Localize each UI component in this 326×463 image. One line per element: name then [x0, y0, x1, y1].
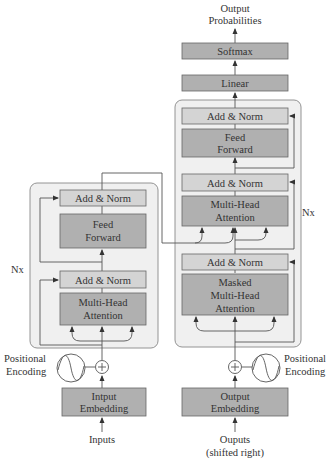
encoder-ff-label-2: Forward [85, 232, 121, 243]
encoder-add-norm-bottom-label: Add & Norm [75, 275, 131, 286]
decoder-ff-label-2: Forward [217, 144, 253, 155]
decoder-pos-label-1: Positional [284, 353, 326, 364]
output-probabilities-label-1: Output [220, 3, 249, 14]
encoder-pos-label-2: Encoding [6, 366, 47, 377]
decoder-add-norm-top-label: Add & Norm [207, 111, 263, 122]
transformer-diagram: Output Probabilities Add & [0, 0, 326, 463]
input-embedding-label-2: Embedding [80, 403, 129, 414]
decoder-ff-label-1: Feed [225, 132, 246, 143]
output-probabilities-label-2: Probabilities [208, 15, 261, 26]
decoder-pos-label-2: Encoding [285, 366, 326, 377]
decoder-masked-label-3: Attention [215, 303, 255, 314]
outputs-label-2: (shifted right) [206, 447, 265, 459]
encoder-add-norm-top-label: Add & Norm [75, 193, 131, 204]
encoder-nx-label: Nx [11, 264, 25, 275]
encoder-ff-label-1: Feed [93, 219, 114, 230]
input-embedding-label-1: Intput [91, 391, 116, 402]
encoder-pos-label-1: Positional [4, 353, 46, 364]
decoder-attn-label-2: Attention [215, 212, 255, 223]
decoder-add-norm-bottom-label: Add & Norm [207, 257, 263, 268]
decoder-masked-label-1: Masked [218, 277, 252, 288]
output-embedding-label-2: Embedding [211, 403, 260, 414]
decoder-masked-label-2: Multi-Head [211, 290, 261, 301]
encoder-attn-label-2: Attention [83, 310, 123, 321]
encoder-attn-label-1: Multi-Head [79, 297, 129, 308]
outputs-label-1: Ouputs [220, 434, 250, 445]
inputs-label: Inputs [89, 434, 115, 445]
decoder-add-norm-middle-label: Add & Norm [207, 178, 263, 189]
output-embedding-label-1: Output [220, 391, 249, 402]
decoder-attn-label-1: Multi-Head [211, 199, 261, 210]
linear-label: Linear [221, 78, 249, 89]
decoder-nx-label: Nx [302, 207, 316, 218]
softmax-label: Softmax [217, 46, 253, 57]
